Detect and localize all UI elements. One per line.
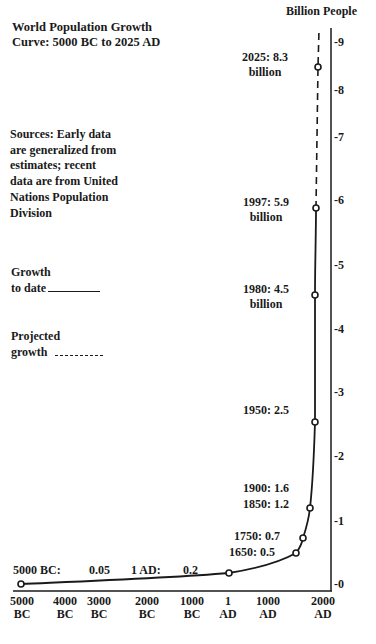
x-tick-label: 2000AD [303,595,343,620]
point-1650 [293,550,299,556]
legend-growth-to-date: Growth to date [11,264,100,296]
annotation-02: 0.2 [183,563,198,578]
legend-label: Growth [11,264,100,280]
x-tick-label: 1AD [208,595,248,620]
sources-line: Nations Population [10,190,118,206]
y-tick-label: -7 [334,131,344,143]
x-tick-label: 1000BC [172,595,212,620]
point-1950 [312,419,318,425]
point-5000bc [18,581,24,587]
y-tick-label: -6 [334,194,344,206]
sources-line: estimates; recent [10,158,118,174]
sources-line: Sources: Early data [10,127,118,143]
y-tick-label: -2 [334,450,344,462]
point-1750 [300,535,306,541]
solid-line-swatch-icon [48,291,100,292]
annotation-1950: 1950: 2.5 [243,403,289,418]
annotation-1750: 1750: 0.7 [234,529,280,544]
annotation-1ad: 1 AD: [131,563,161,578]
dashed-line-swatch-icon [55,355,103,356]
annotation-005: 0.05 [89,563,110,578]
annotation-2025: 2025: 8.3billion [240,50,290,80]
sources-line: data are from United [10,174,118,190]
y-tick-label: -4 [334,323,344,335]
sources-note: Sources: Early data are generalized from… [10,127,118,221]
point-2025 [315,64,321,70]
chart-title-line-1: World Population Growth [12,20,160,35]
y-tick-label: -3 [334,386,344,398]
chart-title: World Population Growth Curve: 5000 BC t… [12,20,160,50]
point-1850 [307,505,313,511]
annotation-1850: 1850: 1.2 [243,497,289,512]
legend-label: Projected [11,328,103,344]
sources-line: are generalized from [10,143,118,159]
legend-label: to date [11,281,46,295]
x-tick-label: 5000BC [2,595,42,620]
y-axis-title: Billion People [286,4,357,19]
annotation-1900: 1900: 1.6 [243,481,289,496]
annotation-5000bc: 5000 BC: [13,563,61,578]
legend-projected-growth: Projected growth [11,328,103,360]
projected-growth-line [316,30,319,208]
point-1997 [313,205,319,211]
x-tick-label: 1000AD [248,595,288,620]
annotation-1650: 1650: 0.5 [229,545,275,560]
x-tick-label: 3000BC [79,595,119,620]
point-1ad [226,570,232,576]
y-tick-label: -8 [334,84,344,96]
y-tick-label: -9 [334,36,344,48]
chart-plot [0,0,376,644]
point-1980 [312,292,318,298]
x-tick-label: 2000BC [127,595,167,620]
y-tick-label: -0 [334,578,344,590]
sources-line: Division [10,206,118,222]
annotation-1980: 1980: 4.5billion [241,282,291,312]
y-tick-label: -5 [334,259,344,271]
chart-title-line-2: Curve: 5000 BC to 2025 AD [12,35,160,50]
legend-label: growth [11,345,47,359]
annotation-1997: 1997: 5.9billion [241,195,291,225]
y-tick-label: -1 [334,515,344,527]
